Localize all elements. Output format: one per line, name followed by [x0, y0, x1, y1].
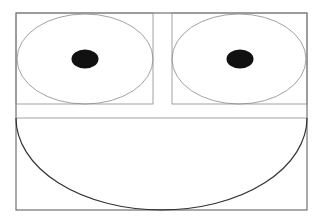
outer-frame	[16, 13, 307, 210]
face-diagram	[0, 0, 322, 218]
left-pupil	[72, 50, 99, 69]
right-pupil	[227, 50, 254, 69]
mouth-arc	[16, 118, 307, 210]
